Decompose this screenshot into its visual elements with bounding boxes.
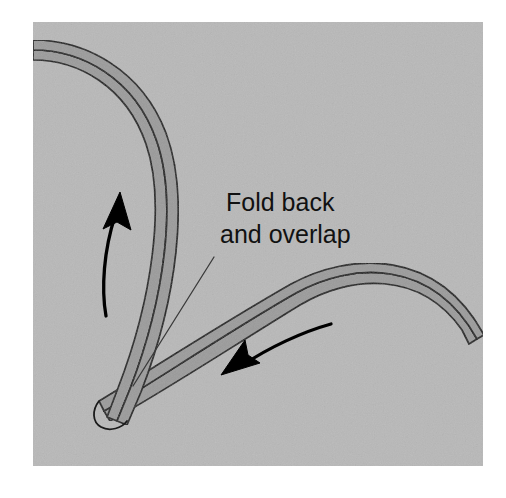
caption-line-1: Fold back xyxy=(226,188,335,216)
figure-root: Fold back and overlap xyxy=(0,0,506,498)
caption-line-2: and overlap xyxy=(220,220,351,248)
fold-back-diagram: Fold back and overlap xyxy=(0,0,506,498)
